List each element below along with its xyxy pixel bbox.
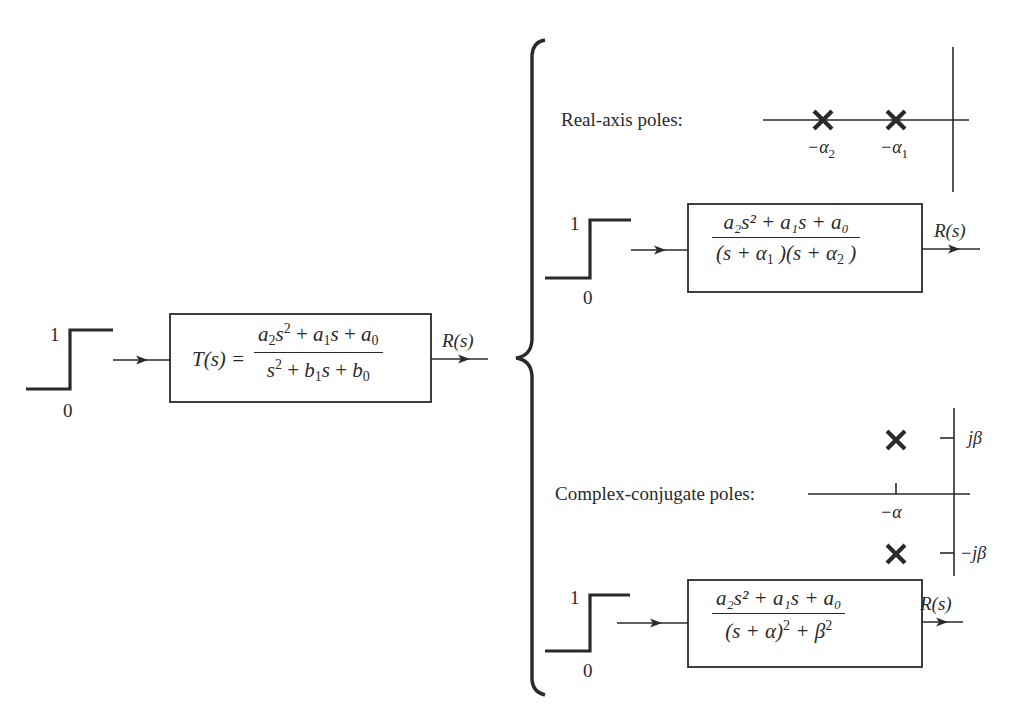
denominator-main: s2 + b1s + b0 xyxy=(263,358,374,384)
output-arrow-complex xyxy=(922,618,963,627)
pole-label-alpha2: −α2 xyxy=(807,138,835,160)
fraction-bar xyxy=(712,613,845,614)
output-arrow-main xyxy=(431,355,488,364)
output-label-real: R(s) xyxy=(934,221,966,240)
denominator-complex: (s + α)2 + β2 xyxy=(721,619,836,642)
step-input-real xyxy=(545,220,631,278)
transfer-function-fraction-real: a₂s² + a₁s + a₀ (s + α1 )(s + α2 ) xyxy=(712,212,860,267)
numerator-complex: a₂s² + a₁s + a₀ xyxy=(712,588,845,609)
block-diagram: 1 0 T(s) = a2s2 + a1s + a0 s2 + b1s + b0… xyxy=(0,0,1022,718)
imag-label-upper: jβ xyxy=(968,429,982,447)
step-low-label-real: 0 xyxy=(583,288,593,307)
fraction-bar xyxy=(712,237,860,238)
input-arrow-complex xyxy=(617,619,688,628)
pole-x-mark-upper xyxy=(887,431,905,449)
fraction-bar xyxy=(254,352,383,353)
step-high-label-complex: 1 xyxy=(570,588,580,607)
lhs-text: T(s) = xyxy=(192,347,245,371)
transfer-function-fraction-main: a2s2 + a1s + a0 s2 + b1s + b0 xyxy=(254,322,383,384)
step-high-label-main: 1 xyxy=(50,325,60,344)
output-label-main: R(s) xyxy=(442,331,474,350)
input-arrow-real xyxy=(631,246,688,255)
step-input-main xyxy=(26,330,113,389)
step-high-label-real: 1 xyxy=(570,214,580,233)
transfer-function-fraction-complex: a₂s² + a₁s + a₀ (s + α)2 + β2 xyxy=(712,588,845,642)
complex-pole-plot xyxy=(808,408,970,576)
curly-brace xyxy=(516,40,545,695)
transfer-function-lhs: T(s) = xyxy=(192,349,245,370)
step-low-label-main: 0 xyxy=(63,401,73,420)
numerator-real: a₂s² + a₁s + a₀ xyxy=(719,212,852,233)
step-low-label-complex: 0 xyxy=(583,661,593,680)
output-label-complex: R(s) xyxy=(920,594,952,613)
numerator-main: a2s2 + a1s + a0 xyxy=(254,322,383,348)
real-part-label: −α xyxy=(880,503,902,521)
diagram-lines xyxy=(0,0,1022,718)
input-arrow-main xyxy=(113,356,170,365)
complex-caption: Complex-conjugate poles: xyxy=(555,484,755,503)
pole-label-alpha1: −α1 xyxy=(880,138,908,160)
pole-x-mark-lower xyxy=(887,545,905,563)
output-arrow-real xyxy=(922,245,980,254)
denominator-real: (s + α1 )(s + α2 ) xyxy=(712,243,860,267)
real-axis-caption: Real-axis poles: xyxy=(561,110,683,129)
real-axis-pole-plot xyxy=(763,47,969,192)
imag-label-lower: −jβ xyxy=(960,544,986,562)
